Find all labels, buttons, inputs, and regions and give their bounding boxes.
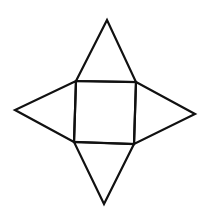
top-triangle-face xyxy=(76,20,136,82)
right-triangle-face xyxy=(134,82,195,144)
left-triangle-face xyxy=(15,81,76,142)
bottom-triangle-face xyxy=(74,142,134,204)
pyramid-net-diagram xyxy=(0,0,200,209)
square-base-face xyxy=(74,81,136,144)
